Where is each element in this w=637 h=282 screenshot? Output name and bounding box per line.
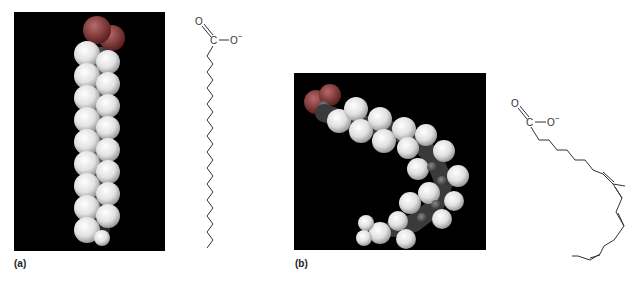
charge-a: − — [238, 32, 243, 41]
anion-oxygen-b: O — [547, 117, 555, 128]
anion-oxygen-a: O — [230, 35, 238, 46]
charge-b: − — [555, 114, 560, 123]
unsaturated-chain-model — [294, 73, 486, 250]
carbonyl-oxygen-b: O — [511, 98, 519, 109]
carbonyl-oxygen-a: O — [195, 16, 203, 27]
space-filling-model-b — [294, 73, 486, 250]
carboxyl-carbon-b: C — [526, 117, 533, 128]
panel-label-a: (a) — [14, 258, 26, 269]
carboxyl-carbon-a: C — [210, 35, 217, 46]
space-filling-model-a — [14, 12, 165, 251]
panel-label-b: (b) — [295, 258, 308, 269]
saturated-chain-model — [14, 12, 165, 251]
